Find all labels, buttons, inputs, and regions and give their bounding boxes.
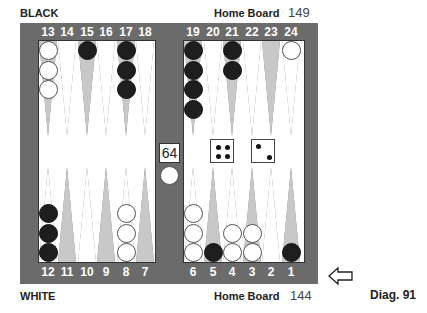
point-label-18: 18 <box>135 25 155 39</box>
checker-white-point-4[interactable] <box>223 224 242 243</box>
checker-white-point-8[interactable] <box>117 224 136 243</box>
checker-white-point-13[interactable] <box>39 41 58 60</box>
checker-white-point-3[interactable] <box>243 224 262 243</box>
checker-black-point-21[interactable] <box>223 61 242 80</box>
die-pip <box>216 154 221 159</box>
checker-white-point-6[interactable] <box>184 204 203 223</box>
bottom-player-label: WHITE <box>20 290 55 302</box>
checker-black-point-5[interactable] <box>204 243 223 262</box>
bottom-pip-count: 144 <box>290 288 312 303</box>
point-triangle[interactable] <box>97 41 115 136</box>
checker-black-point-19[interactable] <box>184 61 203 80</box>
point-label-24: 24 <box>281 25 301 39</box>
checker-black-point-15[interactable] <box>78 41 97 60</box>
top-home-board-label: Home Board <box>214 7 279 19</box>
checker-black-point-12[interactable] <box>39 243 58 262</box>
point-label-10: 10 <box>77 265 97 279</box>
die-1 <box>210 139 234 163</box>
bottom-home-board-label: Home Board <box>214 290 279 302</box>
checker-white-point-8[interactable] <box>117 204 136 223</box>
checker-white-point-4[interactable] <box>223 243 242 262</box>
top-player-label: BLACK <box>20 7 59 19</box>
point-triangle[interactable] <box>262 41 280 136</box>
checker-black-point-12[interactable] <box>39 204 58 223</box>
die-pip <box>256 144 261 149</box>
point-triangle[interactable] <box>97 167 115 262</box>
point-triangle[interactable] <box>243 41 261 136</box>
point-label-17: 17 <box>116 25 136 39</box>
bar-checker-white[interactable] <box>160 166 179 185</box>
point-label-16: 16 <box>96 25 116 39</box>
point-label-19: 19 <box>183 25 203 39</box>
point-label-3: 3 <box>242 265 262 279</box>
die-2 <box>251 139 275 163</box>
point-label-23: 23 <box>261 25 281 39</box>
checker-black-point-19[interactable] <box>184 41 203 60</box>
die-pip <box>267 155 272 160</box>
checker-white-point-6[interactable] <box>184 243 203 262</box>
checker-black-point-17[interactable] <box>117 41 136 60</box>
point-triangle[interactable] <box>136 41 154 136</box>
checker-black-point-19[interactable] <box>184 80 203 99</box>
point-label-14: 14 <box>57 25 77 39</box>
checker-white-point-6[interactable] <box>184 224 203 243</box>
point-label-2: 2 <box>261 265 281 279</box>
point-label-20: 20 <box>203 25 223 39</box>
arrow-left-icon <box>328 266 354 286</box>
checker-black-point-19[interactable] <box>184 100 203 119</box>
point-label-5: 5 <box>203 265 223 279</box>
point-label-12: 12 <box>38 265 58 279</box>
die-pip <box>225 145 230 150</box>
diagram-label: Diag. 91 <box>370 288 416 302</box>
die-pip <box>225 154 230 159</box>
checker-white-point-8[interactable] <box>117 243 136 262</box>
checker-black-point-12[interactable] <box>39 224 58 243</box>
point-triangle[interactable] <box>58 41 76 136</box>
checker-black-point-17[interactable] <box>117 80 136 99</box>
point-label-11: 11 <box>57 265 77 279</box>
point-label-15: 15 <box>77 25 97 39</box>
checker-black-point-21[interactable] <box>223 41 242 60</box>
point-label-9: 9 <box>96 265 116 279</box>
checker-black-point-17[interactable] <box>117 61 136 80</box>
point-label-13: 13 <box>38 25 58 39</box>
checker-black-point-1[interactable] <box>282 243 301 262</box>
point-label-22: 22 <box>242 25 262 39</box>
die-pip <box>216 145 221 150</box>
point-label-6: 6 <box>183 265 203 279</box>
point-triangle[interactable] <box>136 167 154 262</box>
doubling-cube[interactable]: 64 <box>159 143 180 163</box>
point-label-7: 7 <box>135 265 155 279</box>
point-label-4: 4 <box>222 265 242 279</box>
checker-white-point-13[interactable] <box>39 61 58 80</box>
checker-white-point-3[interactable] <box>243 243 262 262</box>
point-label-1: 1 <box>281 265 301 279</box>
checker-white-point-24[interactable] <box>282 41 301 60</box>
point-label-21: 21 <box>222 25 242 39</box>
point-triangle[interactable] <box>262 167 280 262</box>
top-pip-count: 149 <box>288 5 310 20</box>
point-label-8: 8 <box>116 265 136 279</box>
point-triangle[interactable] <box>58 167 76 262</box>
point-triangle[interactable] <box>78 167 96 262</box>
checker-white-point-13[interactable] <box>39 80 58 99</box>
point-triangle[interactable] <box>204 41 222 136</box>
